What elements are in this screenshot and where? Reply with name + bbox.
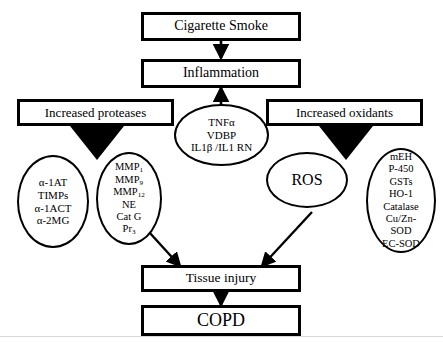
antiprotease-line-4: α-2MG bbox=[37, 214, 70, 227]
ros-label: ROS bbox=[291, 171, 322, 190]
protease-line-1: MMP1 bbox=[115, 161, 143, 173]
box-cigarette-smoke: Cigarette Smoke bbox=[141, 12, 301, 41]
antioxidant-line-6: Cu/Zn- bbox=[386, 213, 416, 225]
antioxidant-line-5: Catalase bbox=[383, 201, 419, 213]
ellipse-protease-factors: MMP1 MMP9 MMP12 NE Cat G Pr3 bbox=[96, 152, 162, 245]
diagram-canvas: Cigarette Smoke Inflammation Increased p… bbox=[0, 0, 443, 345]
antiprotease-line-3: α-1ACT bbox=[35, 202, 72, 215]
box-cigarette-smoke-label: Cigarette Smoke bbox=[174, 19, 268, 34]
box-inflammation-label: Inflammation bbox=[183, 66, 259, 81]
antioxidant-line-2: P-450 bbox=[388, 163, 413, 175]
cytokine-line-1: TNFα bbox=[208, 116, 235, 129]
protease-line-3: MMP12 bbox=[113, 186, 145, 198]
ellipse-antiprotease-factors: α-1AT TIMPs α-1ACT α-2MG bbox=[17, 155, 89, 248]
connector-ros-to-tissue-injury bbox=[262, 212, 312, 266]
box-tissue-injury-label: Tissue injury bbox=[186, 271, 256, 285]
box-tissue-injury: Tissue injury bbox=[141, 265, 301, 292]
antioxidant-line-4: HO-1 bbox=[389, 188, 413, 200]
antiprotease-line-2: TIMPs bbox=[38, 189, 69, 202]
antioxidant-line-8: EC-SOD bbox=[382, 238, 420, 250]
scan-artifact-line bbox=[0, 336, 443, 337]
protease-line-2: MMP9 bbox=[115, 174, 143, 186]
ellipse-reactive-oxygen-species: ROS bbox=[266, 152, 348, 208]
protease-line-4: NE bbox=[122, 199, 136, 211]
cytokine-line-2: VDBP bbox=[207, 129, 236, 142]
ellipse-antioxidant-factors: mEH P-450 GSTs HO-1 Catalase Cu/Zn- SOD … bbox=[366, 148, 436, 253]
antioxidant-line-7: SOD bbox=[390, 225, 411, 237]
box-increased-proteases-label: Increased proteases bbox=[45, 106, 146, 120]
ellipse-cytokine-mediators: TNFα VDBP IL1β /IL1 RN bbox=[174, 104, 269, 166]
triangle-oxidants-marker bbox=[319, 126, 373, 160]
cytokine-line-3: IL1β /IL1 RN bbox=[191, 141, 252, 154]
box-increased-oxidants: Increased oxidants bbox=[266, 99, 423, 126]
connector-proteases-to-tissue-injury bbox=[149, 232, 180, 266]
antiprotease-line-1: α-1AT bbox=[39, 176, 67, 189]
box-copd-label: COPD bbox=[197, 311, 245, 330]
box-increased-proteases: Increased proteases bbox=[17, 99, 174, 126]
box-inflammation: Inflammation bbox=[141, 59, 301, 88]
antioxidant-line-3: GSTs bbox=[389, 176, 412, 188]
protease-line-5: Cat G bbox=[117, 211, 142, 223]
box-copd: COPD bbox=[141, 305, 301, 336]
triangle-proteases-marker bbox=[70, 126, 124, 160]
antioxidant-line-1: mEH bbox=[390, 151, 412, 163]
box-increased-oxidants-label: Increased oxidants bbox=[296, 106, 393, 120]
protease-line-6: Pr3 bbox=[123, 223, 136, 235]
